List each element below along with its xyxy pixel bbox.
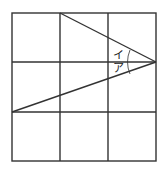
grid-diagram: イ ア: [0, 0, 168, 170]
lower-diagonal-line: [12, 62, 156, 112]
angle-label-upper: イ: [113, 49, 124, 62]
angle-label-lower: ア: [113, 62, 124, 75]
